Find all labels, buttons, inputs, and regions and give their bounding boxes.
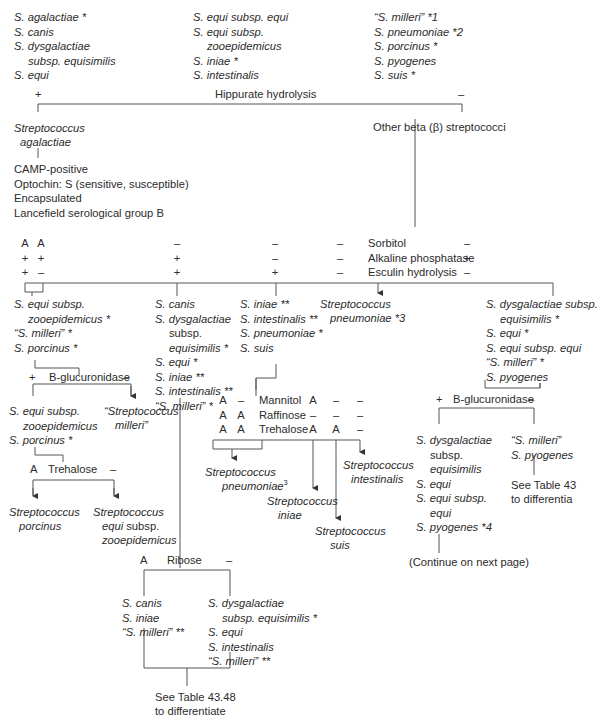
trait: Lancefield serological group B: [14, 206, 189, 221]
species-item: S. intestinalis: [193, 68, 288, 83]
trehalose-neg-3: zooepidemicus: [102, 533, 177, 548]
agalactiae-traits: CAMP-positive Optochin: S (sensitive, su…: [14, 162, 189, 220]
species-item: S. suis *: [374, 68, 463, 83]
bgluc-left-label: B-glucuronidase: [49, 370, 130, 385]
trehalose-left-label: Trehalose: [48, 462, 97, 477]
species-item: S. agalactiae *: [14, 10, 116, 25]
bgluc-left-pos-species: S. equi subsp. zooepidemicus S. porcinus…: [9, 404, 98, 448]
tests2-col4: – – A: [330, 393, 342, 437]
result-suis-1: Streptococcus: [315, 524, 386, 539]
agalactiae-name-1: Streptococcus: [14, 121, 85, 136]
species-item: S. equi subsp. equi: [193, 10, 288, 25]
trehalose-left-neg: –: [110, 462, 116, 477]
bgluc-right-neg: –: [528, 392, 534, 407]
result-iniae-2: iniae: [278, 508, 302, 523]
tests1-col-a2: A + –: [34, 236, 48, 280]
see-table-bottom-1: See Table 43.48: [155, 690, 236, 705]
trehalose-pos-1: Streptococcus: [9, 505, 80, 520]
species-item: S. pneumoniae *2: [374, 25, 463, 40]
tests2-col5: – – –: [354, 393, 366, 437]
species-item: “S. milleri” *1: [374, 10, 463, 25]
result-pneumoniae-2: pneumoniae3: [222, 479, 288, 494]
trait: Encapsulated: [14, 191, 189, 206]
trehalose-neg-1: Streptococcus: [93, 505, 164, 520]
species-item: S. dysgalactiae: [14, 39, 116, 54]
tests2-col3: A – A: [307, 393, 319, 437]
initial-species-col3: “S. milleri” *1 S. pneumoniae *2 S. porc…: [374, 10, 463, 83]
bgluc-right-neg-species: “S. milleri” S. pyogenes: [511, 433, 573, 462]
hippurate-pos: +: [35, 87, 42, 102]
group5-species: S. dysgalactiae subsp. equisimilis * S. …: [486, 297, 598, 384]
tests1-col-c: – – +: [268, 236, 282, 280]
result-intestinalis-2: intestinalis: [351, 472, 403, 487]
trehalose-left-pos: A: [30, 462, 37, 477]
species-item: S. porcinus *: [374, 39, 463, 54]
ribose-pos: A: [140, 553, 147, 568]
see-table-bottom-2: to differentiate: [155, 704, 226, 719]
species-item: S. iniae *: [193, 54, 288, 69]
trait: Optochin: S (sensitive, susceptible): [14, 177, 189, 192]
tests1-labels: Sorbitol Alkaline phosphatase Esculin hy…: [368, 236, 474, 280]
bgluc-right-label: B-glucuronidase: [453, 392, 534, 407]
result-iniae-1: Streptococcus: [267, 494, 338, 509]
tests2-labels: Mannitol Raffinose Trehalose: [259, 393, 308, 437]
bgluc-left-neg-1: “Streptococcus: [104, 404, 179, 419]
initial-species-col2: S. equi subsp. equi S. equi subsp. zooep…: [193, 10, 288, 83]
ribose-label: Ribose: [167, 553, 202, 568]
tests2-col1: A A A: [217, 393, 229, 437]
bgluc-right-pos: +: [436, 392, 443, 407]
agalactiae-name-2: agalactiae: [20, 135, 71, 150]
tests1-col-e: – + –: [460, 236, 474, 280]
ribose-neg: –: [226, 553, 232, 568]
bgluc-left-neg: –: [123, 370, 129, 385]
species-item: S. equi subsp.: [193, 25, 288, 40]
continue-note: (Continue on next page): [409, 555, 529, 570]
ribose-pos-species: S. canis S. iniae “S. milleri” **: [122, 596, 184, 640]
bgluc-left-neg-2: milleri”: [115, 418, 148, 433]
ribose-neg-species: S. dysgalactiae subsp. equisimilis * S. …: [208, 596, 317, 669]
see-table-right-1: See Table 43: [511, 478, 576, 493]
group1-species: S. equi subsp. zooepidemicus * “S. mille…: [14, 297, 110, 355]
bgluc-left-pos: +: [29, 370, 36, 385]
see-table-right-2: to differentia: [511, 492, 572, 507]
group4-line2: pneumoniae *3: [330, 311, 405, 326]
species-item: S. equi: [14, 68, 116, 83]
hippurate-label: Hippurate hydrolysis: [215, 87, 316, 102]
species-item: S. canis: [14, 25, 116, 40]
tests1-col-d: – – –: [333, 236, 347, 280]
result-intestinalis-1: Streptococcus: [343, 458, 414, 473]
tests1-col-a1: A + +: [18, 236, 32, 280]
hippurate-neg: –: [458, 87, 464, 102]
result-suis-2: suis: [330, 538, 350, 553]
bgluc-right-pos-species: S. dysgalactiae subsp. equisimilis S. eq…: [416, 433, 492, 535]
species-item: subsp. equisimilis: [14, 54, 116, 69]
species-item: S. pyogenes: [374, 54, 463, 69]
trehalose-neg-2: equi subsp.: [102, 519, 159, 534]
group3-species: S. iniae ** S. intestinalis ** S. pneumo…: [240, 297, 323, 355]
group4-line1: Streptococcus: [320, 297, 391, 312]
trehalose-pos-2: porcinus: [19, 519, 61, 534]
trait: CAMP-positive: [14, 162, 189, 177]
tests1-col-b: – + +: [170, 236, 184, 280]
species-item: zooepidemicus: [193, 39, 288, 54]
tests2-col2: – A A: [235, 393, 247, 437]
result-pneumoniae-1: Streptococcus: [205, 465, 276, 480]
initial-species-col1: S. agalactiae * S. canis S. dysgalactiae…: [14, 10, 116, 83]
other-beta-label: Other beta (β) streptococci: [373, 120, 506, 135]
